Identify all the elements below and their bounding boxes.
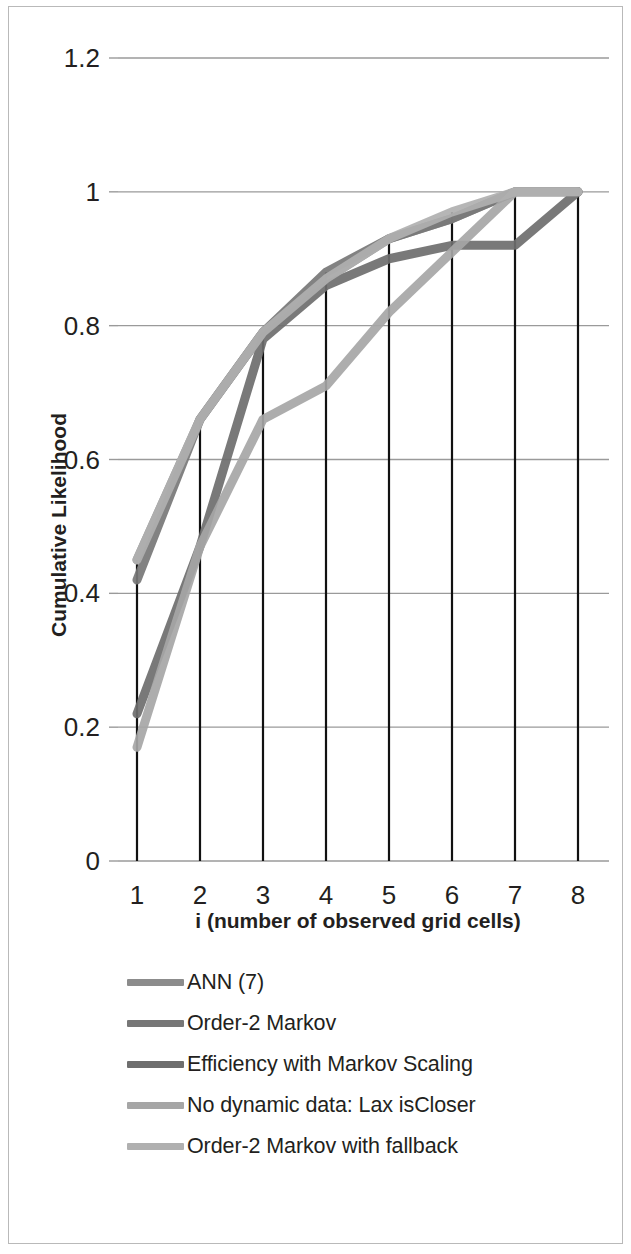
x-axis-tick-labels: 12345678	[130, 880, 585, 910]
legend-item[interactable]: No dynamic data: Lax isCloser	[0, 1085, 631, 1126]
legend-item-label: Order-2 Markov with fallback	[187, 1134, 458, 1159]
legend-color-swatch	[127, 979, 184, 986]
y-axis-title: Cumulative Likelihood	[47, 413, 70, 637]
y-axis-tick-label: 1.2	[64, 43, 100, 73]
y-axis-tick-label: 0.2	[64, 712, 100, 742]
legend-item-label: Order-2 Markov	[187, 1011, 336, 1036]
y-axis-tick-label: 0.8	[64, 311, 100, 341]
x-axis-tick-label: 2	[193, 880, 207, 910]
y-axis-tick-label: 1	[86, 177, 100, 207]
x-axis-tick-label: 8	[571, 880, 585, 910]
x-axis-tick-label: 6	[445, 880, 459, 910]
x-axis-tick-label: 3	[256, 880, 270, 910]
legend-item-label: ANN (7)	[187, 970, 264, 995]
legend-item[interactable]: Order-2 Markov with fallback	[0, 1126, 631, 1167]
cumulative-likelihood-line-chart: 00.20.40.60.811.2 12345678 Cumulative Li…	[0, 0, 631, 960]
legend-color-swatch	[127, 1020, 184, 1027]
legend-color-swatch	[127, 1061, 184, 1068]
y-axis-tick-label: 0	[86, 846, 100, 876]
y-axis-tick-marks	[109, 58, 118, 861]
legend-item-label: No dynamic data: Lax isCloser	[187, 1093, 476, 1118]
x-axis-tick-label: 7	[508, 880, 522, 910]
figure-container: 00.20.40.60.811.2 12345678 Cumulative Li…	[0, 0, 631, 1254]
x-axis-tick-label: 4	[319, 880, 333, 910]
x-axis-tick-label: 5	[382, 880, 396, 910]
chart-legend: ANN (7)Order-2 MarkovEfficiency with Mar…	[0, 962, 631, 1177]
legend-color-swatch	[127, 1102, 184, 1109]
series-lines-group	[137, 192, 578, 747]
legend-item[interactable]: Order-2 Markov	[0, 1003, 631, 1044]
chart-plot-area: 00.20.40.60.811.2 12345678 Cumulative Li…	[0, 0, 631, 960]
legend-item-label: Efficiency with Markov Scaling	[187, 1052, 473, 1077]
series-line	[137, 192, 578, 714]
x-axis-tick-label: 1	[130, 880, 144, 910]
x-axis-title: i (number of observed grid cells)	[195, 909, 521, 932]
legend-item[interactable]: ANN (7)	[0, 962, 631, 1003]
legend-item[interactable]: Efficiency with Markov Scaling	[0, 1044, 631, 1085]
gridlines-group	[118, 58, 609, 861]
legend-color-swatch	[127, 1143, 184, 1150]
